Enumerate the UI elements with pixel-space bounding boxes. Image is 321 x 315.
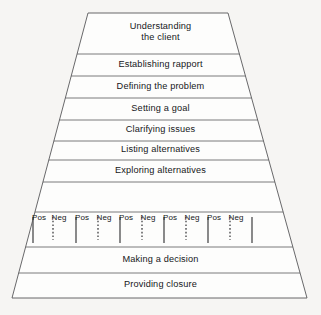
counselling-process-pyramid: Understandingthe clientEstablishing rapp… bbox=[0, 0, 321, 315]
pyramid-outline-and-dividers bbox=[0, 0, 321, 315]
band-label-line: Establishing rapport bbox=[0, 59, 321, 70]
pyramid-band-label: Listing alternatives bbox=[0, 144, 321, 155]
positive-label: Pos bbox=[161, 213, 179, 222]
pyramid-band-label: Defining the problem bbox=[0, 81, 321, 92]
pyramid-band-label: Clarifying issues bbox=[0, 124, 321, 135]
pyramid-band-label: Establishing rapport bbox=[0, 59, 321, 70]
pyramid-band-label: Making a decision bbox=[0, 254, 321, 265]
positive-label: Pos bbox=[30, 213, 48, 222]
band-label-line: Defining the problem bbox=[0, 81, 321, 92]
band-label-line: Listing alternatives bbox=[0, 144, 321, 155]
band-label-line: the client bbox=[0, 32, 321, 43]
pyramid-band-label: Providing closure bbox=[0, 279, 321, 290]
negative-label: Neg bbox=[227, 213, 245, 222]
band-label-line: Clarifying issues bbox=[0, 124, 321, 135]
negative-label: Neg bbox=[139, 213, 157, 222]
pyramid-band-label: Understandingthe client bbox=[0, 21, 321, 43]
positive-label: Pos bbox=[73, 213, 91, 222]
negative-label: Neg bbox=[95, 213, 113, 222]
positive-label: Pos bbox=[205, 213, 223, 222]
negative-label: Neg bbox=[50, 213, 68, 222]
band-label-line: Providing closure bbox=[0, 279, 321, 290]
band-label-line: Making a decision bbox=[0, 254, 321, 265]
band-label-line: Exploring alternatives bbox=[0, 165, 321, 176]
band-label-line: Setting a goal bbox=[0, 103, 321, 114]
positive-label: Pos bbox=[117, 213, 135, 222]
band-label-line: Understanding bbox=[0, 21, 321, 32]
pyramid-band-label: Setting a goal bbox=[0, 103, 321, 114]
pyramid-band-label: Exploring alternatives bbox=[0, 165, 321, 176]
negative-label: Neg bbox=[183, 213, 201, 222]
